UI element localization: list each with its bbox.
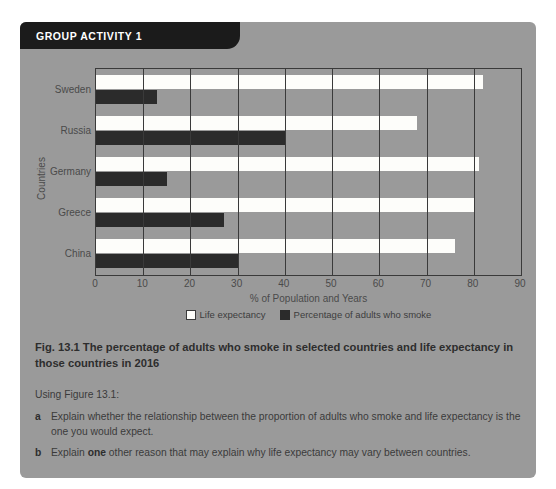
questions-intro: Using Figure 13.1:: [35, 388, 527, 403]
chart-gridline: [474, 69, 475, 275]
question-text: Explain whether the relationship between…: [51, 410, 527, 440]
chart-gridline: [238, 69, 239, 275]
group-activity-title: GROUP ACTIVITY 1: [36, 30, 142, 42]
chart-bar: [96, 239, 455, 253]
question-marker: b: [35, 446, 51, 461]
chart-x-tick: 70: [420, 278, 431, 289]
question-item: aExplain whether the relationship betwee…: [35, 410, 527, 440]
chart-x-axis-title: % of Population and Years: [95, 293, 522, 304]
chart-gridline: [285, 69, 286, 275]
question-emphasis: one: [88, 447, 106, 458]
question-list: aExplain whether the relationship betwee…: [35, 410, 527, 461]
question-text: Explain one other reason that may explai…: [51, 446, 527, 461]
chart-bar: [96, 90, 157, 104]
questions-block: Using Figure 13.1: aExplain whether the …: [35, 388, 527, 467]
chart-gridline: [190, 69, 191, 275]
chart-x-tick: 10: [137, 278, 148, 289]
chart-category-label: Germany: [50, 166, 91, 177]
figure-13-1: Countries ChinaGreeceGermanyRussiaSweden…: [20, 55, 536, 335]
chart-plot-area: [95, 68, 522, 276]
chart-category-label: China: [65, 248, 91, 259]
question-marker: a: [35, 410, 51, 440]
chart-bar: [96, 157, 479, 171]
chart-x-tick: 30: [231, 278, 242, 289]
group-activity-header: GROUP ACTIVITY 1: [20, 22, 240, 49]
legend-swatch-icon: [186, 310, 196, 320]
chart-legend-label: Life expectancy: [200, 309, 266, 320]
chart-legend: Life expectancyPercentage of adults who …: [95, 309, 522, 320]
chart-category-label: Russia: [60, 124, 91, 135]
chart-x-tick: 40: [278, 278, 289, 289]
chart-bar: [96, 254, 238, 268]
chart-gridline: [143, 69, 144, 275]
legend-swatch-icon: [280, 310, 290, 320]
chart-bar: [96, 172, 167, 186]
chart-category-label: Sweden: [55, 83, 91, 94]
chart-x-tick: 80: [467, 278, 478, 289]
chart-x-tick: 60: [373, 278, 384, 289]
chart-bar: [96, 213, 224, 227]
chart-x-tick: 90: [514, 278, 525, 289]
chart-legend-item: Percentage of adults who smoke: [280, 309, 432, 320]
chart-legend-label: Percentage of adults who smoke: [294, 309, 432, 320]
chart-gridline: [379, 69, 380, 275]
chart-category-label: Greece: [58, 207, 91, 218]
chart-category-labels: ChinaGreeceGermanyRussiaSweden: [30, 68, 95, 276]
chart-gridline: [332, 69, 333, 275]
chart-x-tick: 20: [184, 278, 195, 289]
figure-caption: Fig. 13.1 The percentage of adults who s…: [35, 339, 522, 371]
chart-bar: [96, 75, 483, 89]
chart-legend-item: Life expectancy: [186, 309, 266, 320]
question-item: bExplain one other reason that may expla…: [35, 446, 527, 461]
chart-x-tick-labels: 0102030405060708090: [95, 278, 522, 294]
chart-x-tick: 50: [326, 278, 337, 289]
chart-gridline: [427, 69, 428, 275]
chart-x-tick: 0: [92, 278, 98, 289]
chart-bars-layer: [96, 69, 521, 275]
